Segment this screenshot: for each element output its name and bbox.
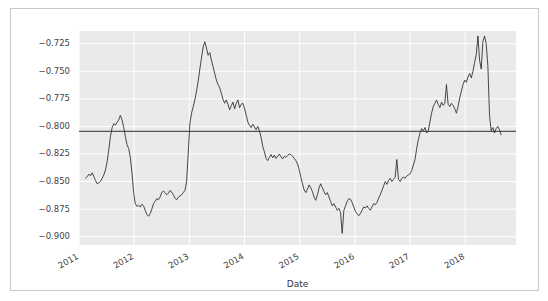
x-axis-title: Date — [287, 279, 309, 289]
x-tick-label-2: 2013 — [167, 251, 191, 270]
y-tick-label-4: −0.825 — [39, 148, 70, 158]
y-tick-label-7: −0.900 — [39, 231, 70, 241]
x-axis-tick-labels: 20112012201320142015201620172018 — [56, 251, 466, 270]
y-tick-label-3: −0.800 — [39, 121, 70, 131]
plot-background-group — [79, 31, 516, 245]
y-tick-label-5: −0.850 — [39, 176, 70, 186]
x-tick-label-0: 2011 — [56, 251, 80, 270]
figure-container: −0.725−0.750−0.775−0.800−0.825−0.850−0.8… — [10, 8, 539, 291]
y-tick-label-1: −0.750 — [39, 66, 70, 76]
x-tick-label-4: 2015 — [277, 251, 301, 270]
y-tick-label-0: −0.725 — [39, 38, 70, 48]
x-tick-label-6: 2017 — [387, 251, 411, 270]
y-tick-label-2: −0.775 — [39, 93, 70, 103]
plot-area-background — [79, 31, 516, 245]
x-tick-label-3: 2014 — [222, 251, 246, 270]
x-tick-label-1: 2012 — [111, 251, 135, 270]
y-axis-tick-labels: −0.725−0.750−0.775−0.800−0.825−0.850−0.8… — [39, 38, 70, 241]
x-tick-label-7: 2018 — [442, 251, 466, 270]
line-chart: −0.725−0.750−0.775−0.800−0.825−0.850−0.8… — [11, 9, 538, 290]
y-tick-label-6: −0.875 — [39, 204, 70, 214]
x-tick-label-5: 2016 — [332, 251, 356, 270]
